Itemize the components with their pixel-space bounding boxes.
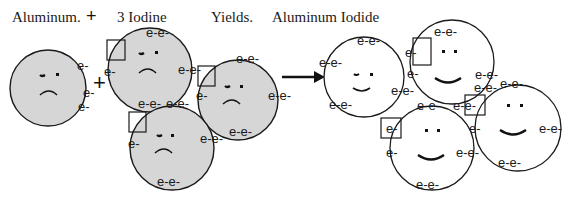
electron-pair: e-e- — [236, 51, 259, 66]
electron-pair: e-e- — [456, 145, 479, 160]
electron-pair: e-e- — [268, 88, 291, 103]
electron: e- — [407, 66, 419, 81]
electron: e- — [128, 136, 140, 151]
electron-pair: e-e- — [391, 83, 414, 98]
electron: e- — [104, 64, 116, 79]
electron-pair: e-e- — [453, 98, 476, 113]
electron-pair: e-e- — [319, 55, 342, 70]
electron: e- — [78, 99, 90, 114]
reaction-diagram: e- e- e- + e-e- e- e-e- e-e- e-e- e- e-e… — [0, 0, 574, 197]
electron: e- — [196, 88, 208, 103]
electron: e- — [386, 145, 398, 160]
electron-pair: e-e- — [329, 97, 352, 112]
electron-pair: e-e- — [498, 155, 521, 170]
aluminum-atom: e- e- e- — [10, 50, 95, 126]
electron-pair: e-e- — [229, 124, 252, 139]
electron-pair: e-e- — [434, 24, 457, 39]
electron-pair: e-e- — [146, 25, 169, 40]
electron-pair: e-e- — [200, 131, 223, 146]
yields-arrow-icon — [282, 71, 325, 83]
electron-pair: e-e- — [417, 98, 440, 113]
electron-pair: e-e- — [539, 121, 562, 136]
electron-pair: e-e- — [474, 80, 497, 95]
electron: e- — [405, 45, 417, 60]
iodine-atom-2: e-e- e- e-e- e-e- — [196, 51, 291, 140]
electron-pair: e-e- — [416, 177, 439, 192]
electron-pair: e-e- — [157, 174, 180, 189]
aluminum-ion: e-e- e-e- e-e- — [319, 33, 404, 117]
electron: e- — [386, 121, 398, 136]
electron: e- — [77, 58, 89, 73]
electron-pair: e-e- — [166, 96, 189, 111]
electron-pair: e-e- — [357, 33, 380, 48]
electron-pair: e-e- — [500, 76, 523, 91]
